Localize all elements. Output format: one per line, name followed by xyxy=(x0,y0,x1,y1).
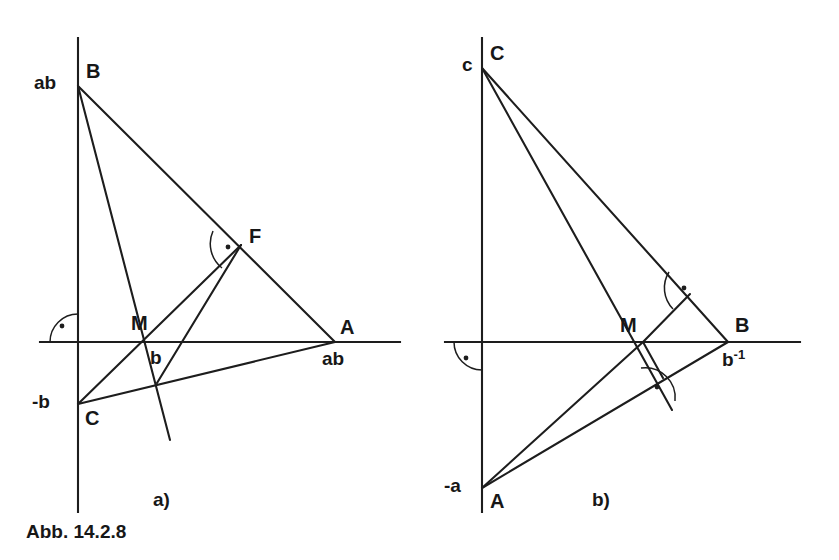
panel-b-label-C: C xyxy=(490,42,504,64)
panel-a-right-angle-at-F xyxy=(210,231,230,268)
panel-b-label-M: M xyxy=(620,314,637,336)
panel-b-segment-A-B xyxy=(482,342,728,488)
panel-a-segment-B-through-M xyxy=(78,86,170,440)
panel-b-value-B-exponent: -1 xyxy=(734,347,746,362)
geometry-canvas: B ab M b A ab C -b F a) xyxy=(0,0,839,560)
panel-a-label-C: C xyxy=(85,407,99,429)
panel-b-segment-C-through-M xyxy=(482,68,672,410)
panel-a: B ab M b A ab C -b F a) xyxy=(32,38,400,512)
panel-a-label-M: M xyxy=(131,312,148,334)
panel-a-value-C: -b xyxy=(32,391,50,412)
panel-a-caption: a) xyxy=(153,489,170,510)
panel-b-right-angle-origin xyxy=(454,342,482,370)
panel-a-value-M: b xyxy=(150,347,162,368)
panel-a-label-B: B xyxy=(86,60,100,82)
panel-b-value-B-base: b xyxy=(722,349,734,370)
panel-b-label-B: B xyxy=(735,314,749,336)
panel-a-segment-C-A xyxy=(78,342,335,404)
panel-a-label-A: A xyxy=(340,316,354,338)
panel-a-label-F: F xyxy=(249,225,261,247)
panel-b-segment-M-foot-lower xyxy=(643,342,663,378)
panel-b-segment-M-foot-upper xyxy=(643,294,690,342)
panel-b: C c M B b-1 A -a b) xyxy=(444,38,800,512)
panel-b-segment-A-M xyxy=(482,342,643,488)
panel-b-value-A: -a xyxy=(444,475,461,496)
figure-abb-14-2-8: B ab M b A ab C -b F a) xyxy=(0,0,839,560)
figure-caption: Abb. 14.2.8 xyxy=(26,521,126,542)
panel-b-value-C: c xyxy=(462,54,473,75)
panel-a-value-A: ab xyxy=(322,348,344,369)
panel-b-value-B: b-1 xyxy=(722,347,745,371)
panel-a-value-B: ab xyxy=(34,72,56,93)
panel-b-label-A: A xyxy=(490,490,504,512)
panel-b-caption: b) xyxy=(592,489,610,510)
panel-b-segment-C-B xyxy=(482,68,728,342)
panel-a-right-angle-origin xyxy=(50,314,78,342)
